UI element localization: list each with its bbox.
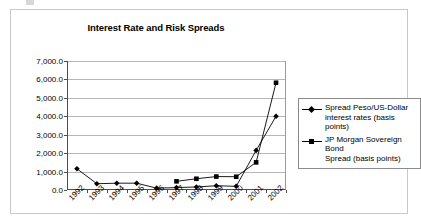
y-tick-label: 7,000.0 [19, 57, 63, 66]
y-tick-label: 4,000.0 [19, 112, 63, 121]
y-tick-label: 3,000.0 [19, 130, 63, 139]
x-tick-mark [206, 190, 207, 193]
data-point-marker [273, 113, 279, 119]
data-point-marker [254, 160, 259, 165]
cropped-artifact [26, 0, 34, 5]
x-tick-mark [266, 190, 267, 193]
x-tick-mark [167, 190, 168, 193]
x-tick-mark [226, 190, 227, 193]
data-point-marker [234, 174, 239, 179]
x-tick-mark [186, 190, 187, 193]
x-tick-mark [127, 190, 128, 193]
y-tick-label: 2,000.0 [19, 149, 63, 158]
x-tick-mark [87, 190, 88, 193]
series-line [77, 116, 276, 188]
chart-title: Interest Rate and Risk Spreads [11, 22, 301, 33]
series-line [177, 83, 277, 182]
legend-square-icon [302, 136, 322, 147]
chart-legend: Spread Peso/US-Dollarinterest rates (bas… [298, 98, 421, 169]
x-tick-mark [286, 190, 287, 193]
x-tick-mark [107, 190, 108, 193]
data-point-marker [194, 176, 199, 181]
data-point-marker [253, 148, 259, 154]
series-layer [67, 61, 286, 190]
y-tick-mark [64, 190, 67, 191]
y-tick-label: 5,000.0 [19, 93, 63, 102]
x-tick-mark [246, 190, 247, 193]
y-tick-label: 1,000.0 [19, 167, 63, 176]
legend-label: Spread Peso/US-Dollarinterest rates (bas… [325, 103, 417, 132]
data-point-marker [214, 174, 219, 179]
x-tick-mark [147, 190, 148, 193]
data-point-marker [274, 80, 279, 85]
y-axis: 0.01,000.02,000.03,000.04,000.05,000.06,… [19, 61, 63, 190]
y-tick-label: 6,000.0 [19, 75, 63, 84]
legend-entry: Spread Peso/US-Dollarinterest rates (bas… [302, 103, 417, 132]
legend-diamond-icon [302, 104, 322, 115]
legend-label: JP Morgan Sovereign BondSpread (basis po… [325, 135, 417, 164]
chart-frame: Interest Rate and Risk Spreads 0.01,000.… [10, 9, 408, 214]
legend-entry: JP Morgan Sovereign BondSpread (basis po… [302, 135, 417, 164]
y-tick-label: 0.0 [19, 186, 63, 195]
